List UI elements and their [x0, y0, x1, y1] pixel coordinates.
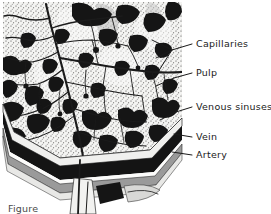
figure-page: Capillaries Pulp Venous sinuses Vein Art… — [0, 0, 271, 214]
label-artery: Artery — [196, 149, 227, 160]
label-capillaries: Capillaries — [196, 38, 248, 49]
label-vein: Vein — [196, 131, 217, 142]
label-venous-sinuses: Venous sinuses — [196, 101, 271, 112]
histology-figure: Capillaries Pulp Venous sinuses Vein Art… — [0, 0, 271, 214]
figure-caption: Figure — [8, 203, 38, 214]
label-pulp: Pulp — [196, 67, 217, 78]
